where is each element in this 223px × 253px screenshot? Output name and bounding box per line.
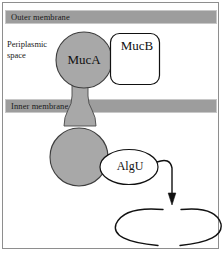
muca-label: MucA bbox=[57, 52, 111, 68]
dna-loop-left-arc bbox=[115, 209, 163, 246]
inner-membrane-label: Inner membrane bbox=[11, 101, 68, 111]
algu-label: AlgU bbox=[103, 159, 157, 174]
periplasmic-space-label-line2: space bbox=[7, 50, 59, 61]
figure-container: Outer membrane Inner membrane Periplasmi… bbox=[0, 0, 223, 253]
muca-cytoplasmic-circle bbox=[50, 128, 108, 186]
periplasmic-space-label: Periplasmic space bbox=[7, 39, 59, 60]
outer-membrane-label: Outer membrane bbox=[11, 12, 70, 22]
algu-arrow-line bbox=[157, 160, 172, 195]
periplasmic-space-label-line1: Periplasmic bbox=[7, 39, 59, 50]
dna-loop-right-arc bbox=[180, 209, 221, 246]
algu-arrow-head bbox=[168, 193, 176, 205]
mucb-label: MucB bbox=[112, 38, 162, 54]
